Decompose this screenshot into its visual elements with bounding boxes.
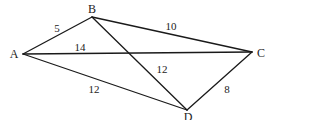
length-label-ac: 14 — [75, 42, 86, 53]
length-label-ab: 5 — [54, 23, 60, 34]
vertex-label-a: A — [10, 48, 19, 60]
length-label-bc: 10 — [166, 21, 177, 32]
vertex-label-c: C — [257, 47, 265, 59]
vertex-label-d: D — [184, 111, 193, 120]
length-label-bd: 12 — [157, 64, 168, 75]
geometry-diagram: A B C D 5 10 14 12 12 8 — [0, 0, 311, 120]
diagram-edges — [0, 0, 311, 120]
length-label-cd: 8 — [224, 84, 230, 95]
edge-ac — [23, 52, 252, 54]
edge-cd — [187, 52, 252, 110]
length-label-ad: 12 — [89, 84, 100, 95]
vertex-label-b: B — [88, 3, 96, 15]
